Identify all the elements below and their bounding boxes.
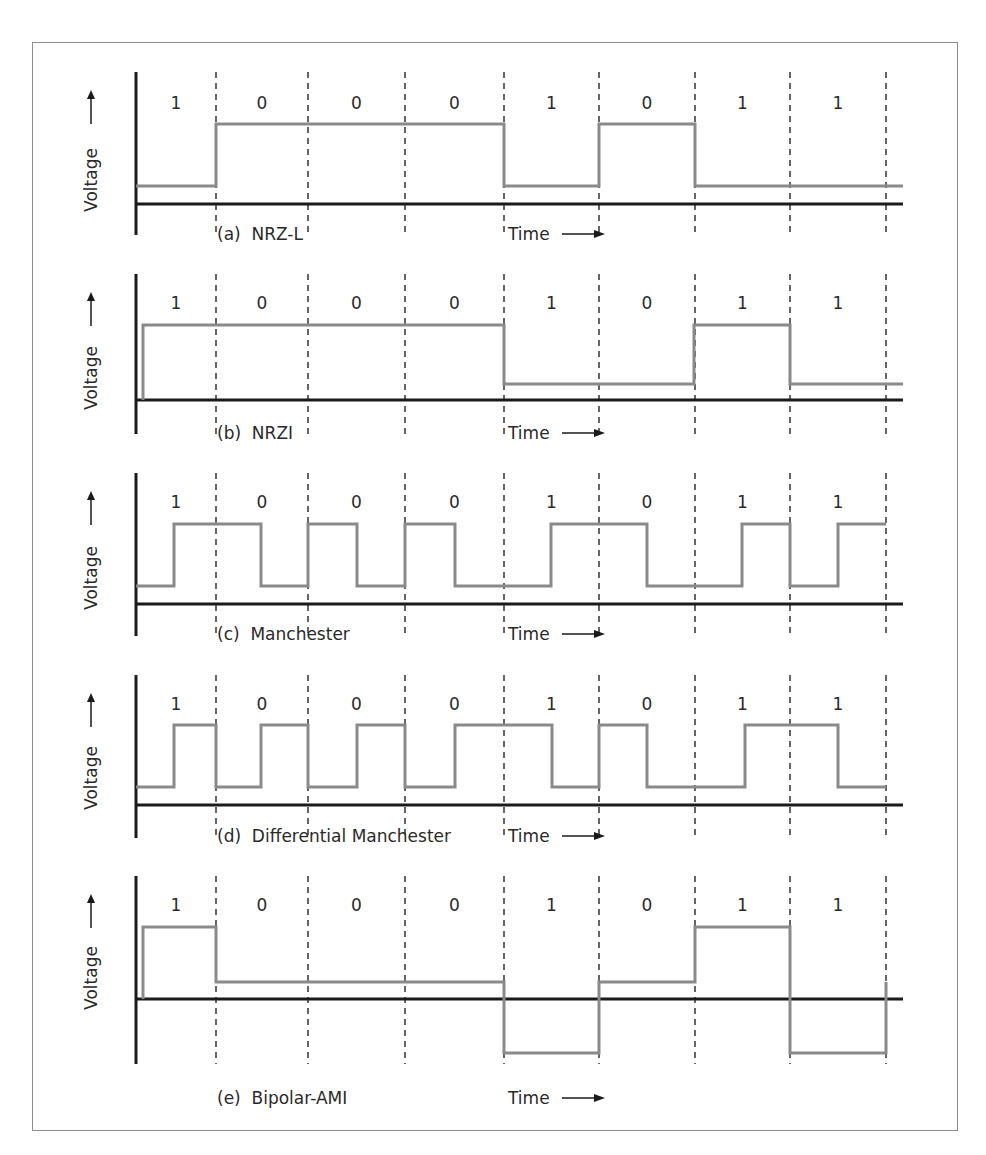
arrow-up-icon — [87, 90, 95, 99]
bit-label: 1 — [546, 895, 557, 915]
panel-a: 10001011Voltage(a) NRZ-LTime — [81, 72, 903, 244]
bit-label: 1 — [171, 93, 182, 113]
bit-label: 0 — [257, 293, 268, 313]
bit-label: 1 — [737, 492, 748, 512]
time-axis-label: Time — [507, 624, 550, 644]
bit-label: 1 — [833, 895, 844, 915]
panel-b: 10001011Voltage(b) NRZITime — [81, 274, 903, 443]
arrow-up-icon — [87, 894, 95, 903]
bit-label: 0 — [642, 492, 653, 512]
voltage-axis-label: Voltage — [81, 746, 101, 810]
arrow-up-icon — [87, 693, 95, 702]
bit-label: 0 — [449, 93, 460, 113]
waveform-a — [136, 124, 903, 186]
bit-label: 1 — [171, 895, 182, 915]
bit-label: 1 — [171, 694, 182, 714]
voltage-axis-label: Voltage — [81, 946, 101, 1010]
bit-label: 0 — [642, 694, 653, 714]
waveform-d — [136, 725, 886, 787]
bit-label: 1 — [546, 492, 557, 512]
bit-label: 1 — [171, 492, 182, 512]
bit-label: 0 — [257, 694, 268, 714]
voltage-axis-label: Voltage — [81, 546, 101, 610]
bit-label: 0 — [642, 293, 653, 313]
panel-caption: (b) NRZI — [217, 423, 293, 443]
bit-label: 1 — [833, 93, 844, 113]
bit-label: 0 — [257, 93, 268, 113]
voltage-axis-label: Voltage — [81, 148, 101, 212]
bit-label: 1 — [546, 293, 557, 313]
panel-caption: (c) Manchester — [217, 624, 350, 644]
bit-label: 0 — [257, 492, 268, 512]
time-axis-label: Time — [507, 826, 550, 846]
arrow-up-icon — [87, 491, 95, 500]
bit-label: 1 — [546, 93, 557, 113]
bit-label: 0 — [351, 694, 362, 714]
bit-label: 0 — [351, 492, 362, 512]
bit-label: 1 — [737, 694, 748, 714]
bit-label: 1 — [737, 93, 748, 113]
time-axis-label: Time — [507, 1088, 550, 1108]
bit-label: 1 — [171, 293, 182, 313]
time-axis-label: Time — [507, 224, 550, 244]
bit-label: 0 — [351, 895, 362, 915]
waveform-c — [136, 524, 886, 586]
bit-label: 0 — [449, 293, 460, 313]
bit-label: 0 — [351, 93, 362, 113]
arrow-right-icon — [594, 1094, 605, 1102]
bit-label: 1 — [833, 492, 844, 512]
bit-label: 0 — [449, 895, 460, 915]
panel-caption: (d) Differential Manchester — [217, 826, 451, 846]
voltage-axis-label: Voltage — [81, 346, 101, 410]
bit-label: 1 — [833, 694, 844, 714]
bit-label: 0 — [642, 895, 653, 915]
panel-e: 10001011Voltage(e) Bipolar-AMITime — [81, 876, 903, 1108]
panel-d: 10001011Voltage(d) Differential Manchest… — [81, 675, 903, 846]
time-axis-label: Time — [507, 423, 550, 443]
waveform-b — [143, 325, 903, 400]
panel-c: 10001011Voltage(c) ManchesterTime — [81, 473, 903, 644]
bit-label: 1 — [546, 694, 557, 714]
signal-encoding-diagram: 10001011Voltage(a) NRZ-LTime10001011Volt… — [0, 0, 986, 1155]
waveform-e — [143, 927, 886, 1053]
arrow-up-icon — [87, 292, 95, 301]
panel-caption: (e) Bipolar-AMI — [217, 1088, 347, 1108]
bit-label: 0 — [351, 293, 362, 313]
bit-label: 0 — [257, 895, 268, 915]
bit-label: 0 — [449, 492, 460, 512]
bit-label: 1 — [833, 293, 844, 313]
bit-label: 1 — [737, 293, 748, 313]
bit-label: 1 — [737, 895, 748, 915]
bit-label: 0 — [449, 694, 460, 714]
panel-caption: (a) NRZ-L — [217, 224, 304, 244]
bit-label: 0 — [642, 93, 653, 113]
